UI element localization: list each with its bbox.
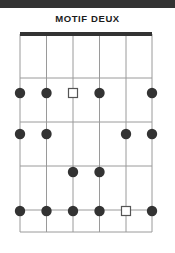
finger-dot-marker xyxy=(15,206,25,216)
open-square-marker xyxy=(69,89,78,98)
finger-dot-marker xyxy=(94,206,104,216)
finger-dot-marker xyxy=(147,88,157,98)
finger-dot-marker xyxy=(147,206,157,216)
finger-dot-marker xyxy=(121,129,131,139)
marker-layer xyxy=(15,88,157,216)
finger-dot-marker xyxy=(147,129,157,139)
finger-dot-marker xyxy=(94,88,104,98)
finger-dot-marker xyxy=(68,167,78,177)
nut-bar-rect xyxy=(20,32,152,36)
finger-dot-marker xyxy=(94,167,104,177)
open-square-marker xyxy=(122,207,131,216)
fretboard-svg xyxy=(0,0,175,253)
finger-dot-marker xyxy=(15,129,25,139)
finger-dot-marker xyxy=(41,88,51,98)
grid-layer xyxy=(20,34,152,232)
finger-dot-marker xyxy=(41,206,51,216)
finger-dot-marker xyxy=(15,88,25,98)
nut-bar xyxy=(20,32,152,36)
finger-dot-marker xyxy=(41,129,51,139)
fretboard-diagram xyxy=(0,0,175,253)
finger-dot-marker xyxy=(68,206,78,216)
